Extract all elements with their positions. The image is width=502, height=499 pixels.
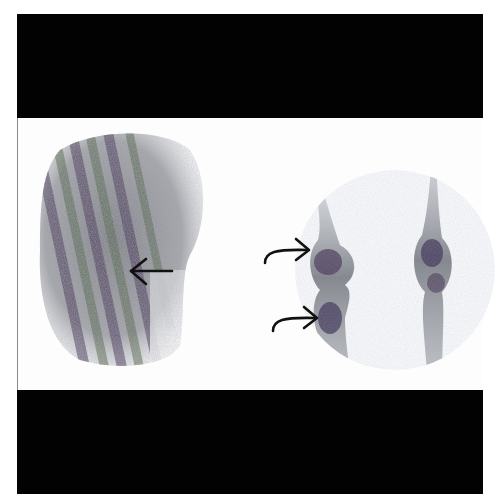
scan-image xyxy=(0,0,502,499)
left-scan-view xyxy=(30,131,203,388)
right-scan-view xyxy=(295,135,495,390)
